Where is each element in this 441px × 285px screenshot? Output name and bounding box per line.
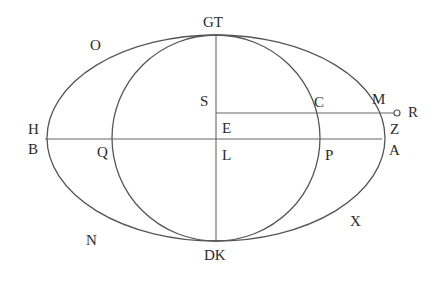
- label-n: N: [86, 232, 97, 248]
- geometry-diagram: GT O S C M R H E Z B Q L P A N X DK: [0, 0, 441, 285]
- ray-end-circle: [394, 110, 400, 116]
- label-r: R: [408, 104, 418, 120]
- label-l: L: [222, 147, 231, 163]
- label-p: P: [325, 147, 333, 163]
- label-z: Z: [390, 121, 399, 137]
- label-s: S: [200, 93, 208, 109]
- label-h: H: [28, 121, 39, 137]
- label-q: Q: [97, 144, 108, 160]
- label-b: B: [28, 141, 38, 157]
- label-gt: GT: [203, 14, 223, 30]
- label-dk: DK: [204, 247, 226, 263]
- label-o: O: [90, 37, 101, 53]
- label-x: X: [350, 213, 361, 229]
- label-m: M: [372, 91, 385, 107]
- label-c: C: [314, 94, 324, 110]
- label-e: E: [222, 120, 231, 136]
- label-a: A: [389, 142, 400, 158]
